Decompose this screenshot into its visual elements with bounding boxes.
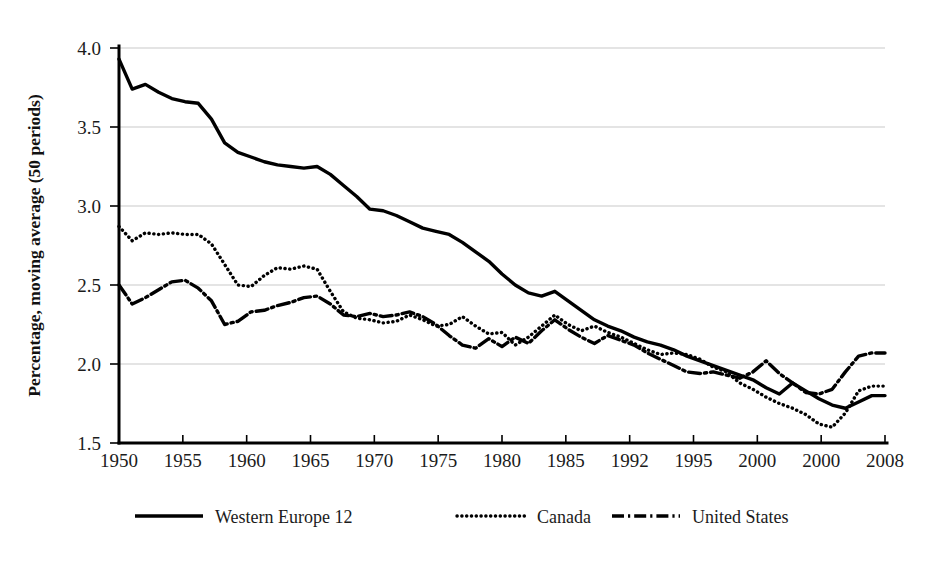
y-tick-label: 2.5 [77, 275, 101, 296]
line-chart: 1.52.02.53.03.54.0 195019551960196519701… [0, 0, 925, 561]
y-tick-label: 1.5 [77, 433, 101, 454]
data-series-group [119, 59, 885, 427]
x-tick-label: 1955 [164, 450, 202, 471]
x-tick-label: 1995 [675, 450, 713, 471]
x-tick-label: 1980 [483, 450, 521, 471]
chart-legend: Western Europe 12CanadaUnited States [135, 507, 789, 527]
y-tick-label: 4.0 [77, 38, 101, 59]
legend-label: United States [692, 507, 789, 527]
series-line [119, 59, 885, 408]
x-tick-label: 1970 [355, 450, 393, 471]
y-tick-label: 3.0 [77, 196, 101, 217]
x-tick-label: 1992 [611, 450, 649, 471]
y-axis-label: Percentage, moving average (50 periods) [24, 94, 44, 397]
x-tick-label: 1965 [292, 450, 330, 471]
x-tick-label: 1950 [100, 450, 138, 471]
x-tick-label: 1960 [228, 450, 266, 471]
legend-label: Canada [537, 507, 591, 527]
series-line [119, 280, 885, 394]
x-tick-label: 1985 [547, 450, 585, 471]
legend-label: Western Europe 12 [215, 507, 353, 527]
chart-figure: 1.52.02.53.03.54.0 195019551960196519701… [0, 0, 925, 561]
gridlines [119, 48, 885, 443]
x-axis-tick-labels: 1950195519601965197019751980198519921995… [100, 450, 904, 471]
y-tick-label: 2.0 [77, 354, 101, 375]
y-axis-tick-labels: 1.52.02.53.03.54.0 [77, 38, 101, 454]
y-tick-label: 3.5 [77, 117, 101, 138]
series-line [119, 227, 885, 428]
x-tick-label: 1975 [419, 450, 457, 471]
x-tick-label: 2000 [802, 450, 840, 471]
x-tick-label: 2008 [866, 450, 904, 471]
x-tick-label: 2000 [738, 450, 776, 471]
